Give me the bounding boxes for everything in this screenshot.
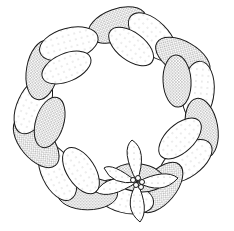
wreath-illustration: Braided bread wreath with poinsettia [0, 0, 234, 231]
wreath-drawing [0, 0, 234, 231]
